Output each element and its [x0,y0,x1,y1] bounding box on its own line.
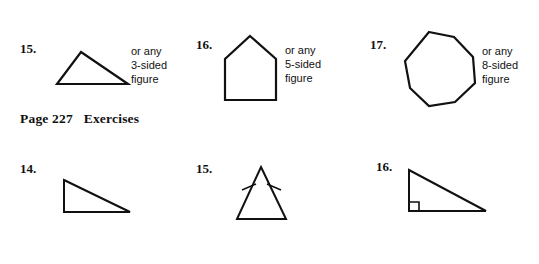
exercise-number-top-1: 15. [20,42,36,55]
figure-octagon-8-sided [400,26,484,112]
figure-triangle-3-sided [52,46,136,92]
worksheet-page: 15. or any 3-sided figure 16. or any 5-s… [0,0,539,264]
exercise-number-bottom-2: 15. [196,162,212,175]
section-heading: Page 227 Exercises [20,112,139,126]
note-top-2: or any 5-sided figure [285,43,321,85]
exercise-number-bottom-3: 16. [376,160,392,173]
figure-isosceles-triangle [232,162,294,226]
right-angle-marker [409,202,419,211]
exercise-number-top-3: 17. [370,38,386,51]
figure-right-triangle-marked [402,164,494,220]
figure-right-triangle-plain [58,174,138,220]
tick-mark-left [242,184,256,190]
tick-mark-right [267,184,281,190]
figure-pentagon-5-sided [220,30,284,106]
note-top-1: or any 3-sided figure [131,44,167,86]
exercise-number-top-2: 16. [196,38,212,51]
note-top-3: or any 8-sided figure [482,44,518,86]
exercise-number-bottom-1: 14. [20,162,36,175]
